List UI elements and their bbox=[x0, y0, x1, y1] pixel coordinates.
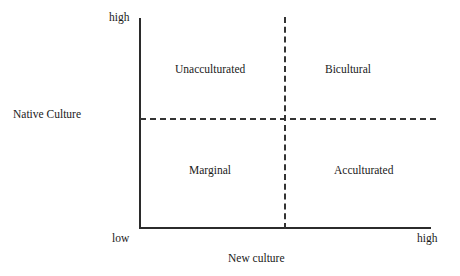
quadrant-label-acculturated: Acculturated bbox=[334, 163, 393, 177]
x-axis-title: New culture bbox=[228, 251, 285, 265]
y-axis-line bbox=[139, 18, 141, 229]
horizontal-divider-dashed-line bbox=[140, 118, 436, 120]
x-axis-high-label: high bbox=[417, 231, 437, 245]
quadrant-label-bicultural: Bicultural bbox=[325, 62, 371, 76]
y-axis-low-label: low bbox=[112, 231, 129, 245]
y-axis-high-label: high bbox=[109, 10, 129, 24]
vertical-divider-dashed-line bbox=[284, 17, 286, 229]
quadrant-label-marginal: Marginal bbox=[189, 163, 231, 177]
y-axis-title: Native Culture bbox=[13, 107, 81, 121]
acculturation-quadrant-diagram: high low high Native Culture New culture… bbox=[0, 0, 460, 276]
quadrant-label-unacculturated: Unacculturated bbox=[175, 62, 245, 76]
